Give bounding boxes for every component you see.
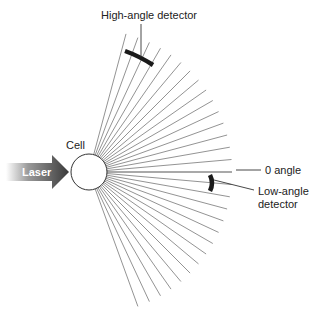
low-angle-detector-label-line1: Low-angle: [258, 185, 309, 197]
cell-circle: [71, 154, 107, 190]
scatter-ray: [97, 180, 191, 274]
scatter-ray: [99, 135, 227, 169]
scatter-ray: [99, 177, 219, 233]
scatter-ray: [99, 112, 219, 168]
scatter-ray: [97, 71, 191, 164]
laser-arrow: Laser: [6, 155, 69, 189]
laser-label: Laser: [22, 166, 52, 178]
scatter-ray: [92, 34, 126, 162]
high-angle-detector-label: High-angle detector: [101, 9, 197, 21]
zero-angle-label: 0 angle: [265, 164, 301, 176]
scatter-rays: [92, 34, 232, 307]
low-angle-detector-label-line2: detector: [258, 198, 298, 210]
light-scatter-diagram: Cell Laser High-angle detector 0 angle L…: [0, 0, 323, 313]
scatter-ray: [99, 175, 227, 209]
cell-label: Cell: [66, 139, 85, 151]
scatter-ray: [94, 182, 150, 302]
